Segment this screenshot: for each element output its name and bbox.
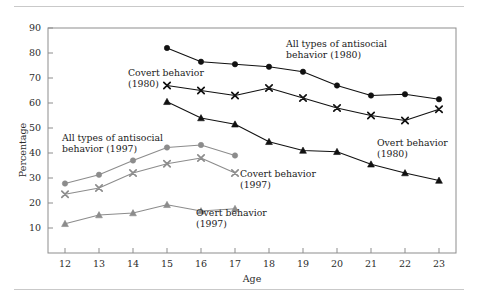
y-axis-title: Percentage <box>17 122 28 177</box>
x-tick-label: 18 <box>263 258 275 269</box>
data-point-triangle-marker <box>164 201 171 207</box>
data-point-triangle-marker <box>164 98 171 104</box>
data-point-circle-marker <box>368 93 373 98</box>
x-tick-label: 16 <box>195 258 207 269</box>
series-line <box>65 158 235 194</box>
data-point-circle-marker <box>334 83 339 88</box>
line-chart: 102030405060708090 121314151617181920212… <box>0 0 478 300</box>
y-tick-label: 90 <box>29 22 41 33</box>
y-tick-label: 60 <box>29 97 41 108</box>
x-axis-ticks <box>65 248 439 253</box>
data-series <box>164 82 442 123</box>
annotation-line-1: Covert behavior <box>128 67 204 78</box>
annotation-line-2: behavior (1997) <box>62 143 137 154</box>
series-line <box>167 86 439 121</box>
data-point-cross-marker <box>130 170 136 176</box>
data-point-circle-marker <box>198 142 203 147</box>
data-point-triangle-marker <box>266 138 273 144</box>
data-point-triangle-marker <box>368 161 375 167</box>
x-tick-label: 22 <box>399 258 411 269</box>
series-annotation: Covert behavior(1997) <box>240 168 316 190</box>
annotation-line-2: (1980) <box>128 78 159 89</box>
x-axis-tick-labels: 121314151617181920212223 <box>59 258 445 269</box>
data-point-circle-marker <box>96 172 101 177</box>
data-point-circle-marker <box>232 153 237 158</box>
data-point-circle-marker <box>232 62 237 67</box>
y-tick-label: 30 <box>29 172 41 183</box>
y-axis-tick-labels: 102030405060708090 <box>29 22 41 233</box>
data-point-circle-marker <box>198 59 203 64</box>
figure-container: 102030405060708090 121314151617181920212… <box>0 0 478 300</box>
annotation-line-2: behavior (1980) <box>286 49 361 60</box>
data-point-circle-marker <box>266 64 271 69</box>
x-axis-title: Age <box>242 273 262 284</box>
annotation-line-1: All types of antisocial <box>285 38 387 49</box>
x-tick-label: 19 <box>297 258 309 269</box>
annotation-line-2: (1997) <box>196 218 227 229</box>
data-point-circle-marker <box>436 97 441 102</box>
annotation-line-1: Overt behavior <box>196 207 267 218</box>
data-point-circle-marker <box>164 45 169 50</box>
y-tick-label: 20 <box>29 197 41 208</box>
data-point-circle-marker <box>300 69 305 74</box>
annotation-line-2: (1980) <box>377 148 408 159</box>
annotation-layer: All types of antisocialbehavior (1980)Co… <box>61 38 448 229</box>
x-tick-label: 13 <box>93 258 105 269</box>
annotation-line-1: All types of antisocial <box>61 132 163 143</box>
data-point-cross-marker <box>300 95 306 101</box>
annotation-line-2: (1997) <box>240 179 271 190</box>
x-tick-label: 20 <box>331 258 343 269</box>
data-point-cross-marker <box>436 106 442 112</box>
data-point-circle-marker <box>62 181 67 186</box>
data-point-cross-marker <box>232 170 238 176</box>
x-tick-label: 15 <box>161 258 173 269</box>
x-tick-label: 23 <box>433 258 445 269</box>
x-tick-label: 12 <box>59 258 71 269</box>
data-point-circle-marker <box>402 92 407 97</box>
y-tick-label: 70 <box>29 72 41 83</box>
y-tick-label: 10 <box>29 222 41 233</box>
y-tick-label: 80 <box>29 47 41 58</box>
x-tick-label: 14 <box>127 258 139 269</box>
data-point-triangle-marker <box>198 115 205 121</box>
x-tick-label: 21 <box>365 258 377 269</box>
y-tick-label: 50 <box>29 122 41 133</box>
y-axis-ticks <box>48 28 53 228</box>
series-annotation: Overt behavior(1980) <box>377 137 448 159</box>
series-annotation: All types of antisocialbehavior (1980) <box>285 38 387 60</box>
data-point-circle-marker <box>164 145 169 150</box>
y-tick-label: 40 <box>29 147 41 158</box>
series-annotation: Overt behavior(1997) <box>196 207 267 229</box>
annotation-line-1: Covert behavior <box>240 168 316 179</box>
data-series <box>62 155 238 198</box>
series-annotation: All types of antisocialbehavior (1997) <box>61 132 163 154</box>
data-point-circle-marker <box>130 158 135 163</box>
annotation-line-1: Overt behavior <box>377 137 448 148</box>
x-tick-label: 17 <box>229 258 241 269</box>
